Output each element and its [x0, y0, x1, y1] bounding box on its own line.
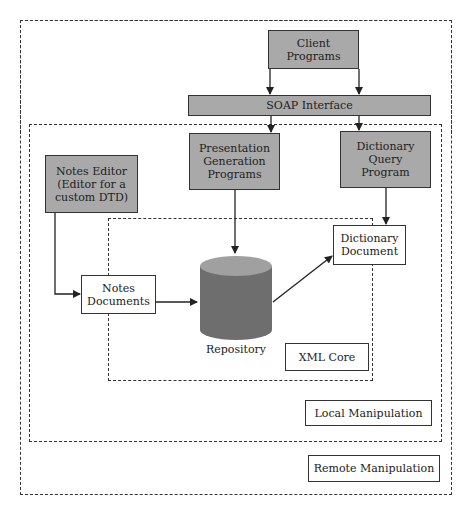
connector-arrows	[0, 0, 468, 512]
